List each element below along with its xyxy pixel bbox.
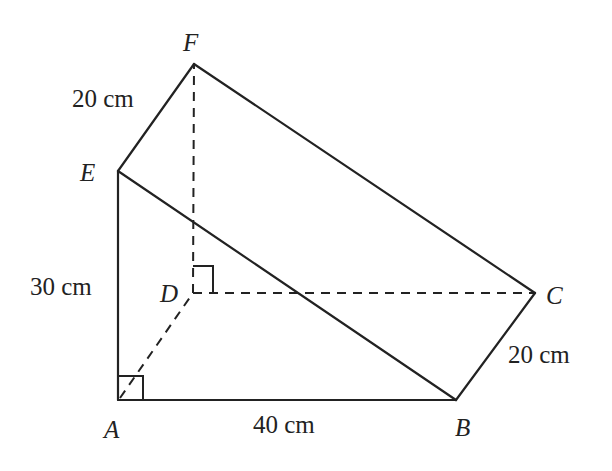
edge-DF-hidden (193, 64, 194, 293)
measure-AE: 30 cm (30, 273, 92, 300)
edge-EF (118, 64, 194, 171)
vertex-label-A: A (102, 416, 120, 443)
vertex-label-B: B (455, 414, 470, 441)
vertex-label-C: C (546, 282, 563, 309)
vertex-label-F: F (182, 29, 199, 56)
vertex-label-E: E (79, 159, 95, 186)
right-angle-mark-D (193, 266, 213, 293)
prism-diagram: F E D C A B 20 cm 30 cm 40 cm 20 cm (0, 0, 612, 471)
edge-FC (194, 64, 535, 293)
vertex-label-D: D (159, 280, 178, 307)
measure-EF: 20 cm (72, 85, 134, 112)
measure-AB: 40 cm (253, 411, 315, 438)
edge-AD-hidden (120, 293, 193, 398)
measure-BC: 20 cm (508, 341, 570, 368)
